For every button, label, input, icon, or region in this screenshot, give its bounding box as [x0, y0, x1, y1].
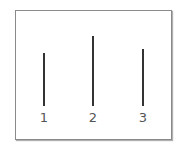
vertical-line-3 — [142, 49, 144, 106]
vertical-line-2 — [92, 36, 94, 106]
line-label-1: 1 — [36, 111, 52, 124]
vertical-line-1 — [43, 53, 45, 106]
line-label-3: 3 — [135, 111, 151, 124]
line-label-2: 2 — [85, 111, 101, 124]
